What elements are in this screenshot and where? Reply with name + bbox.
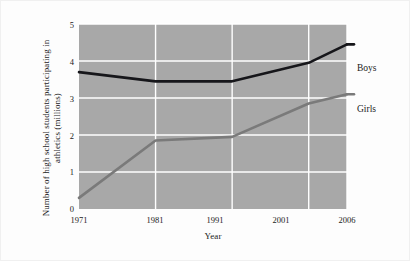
series-label-girls: Girls <box>357 104 376 114</box>
x-tick-label-2006: 2006 <box>327 215 367 225</box>
series-label-boys: Boys <box>357 63 377 73</box>
chart-figure: 5 4 3 2 1 0 1971 1981 1991 2001 2006 Num… <box>0 0 410 261</box>
x-tick-label-1971: 1971 <box>59 215 99 225</box>
x-tick-label-1991: 1991 <box>195 215 235 225</box>
plot-area-background <box>79 24 347 209</box>
y-tick-label-5: 5 <box>60 20 74 30</box>
x-tick-label-1981: 1981 <box>135 215 175 225</box>
y-axis-title: Number of high school students participa… <box>41 33 63 223</box>
x-tick-label-2001: 2001 <box>261 215 301 225</box>
x-axis-title: Year <box>79 231 347 241</box>
